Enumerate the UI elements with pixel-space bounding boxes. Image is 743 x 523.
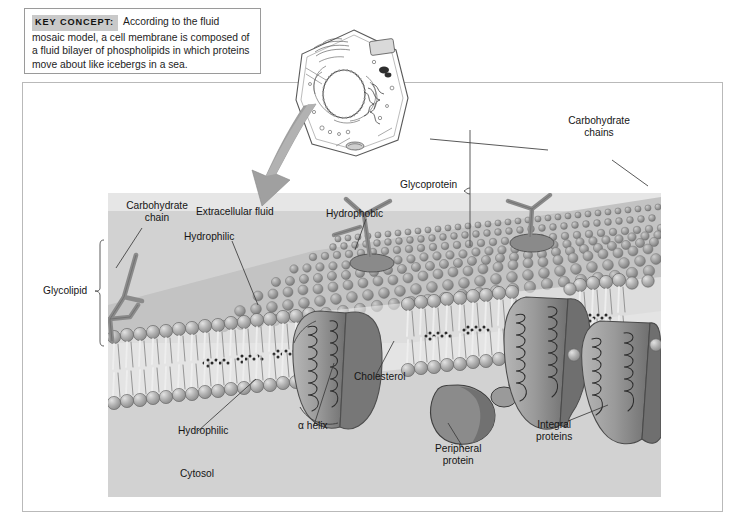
figure-page: KEY CONCEPT:According to the fluid mosai… bbox=[0, 0, 743, 523]
outside-leaders bbox=[0, 0, 743, 523]
